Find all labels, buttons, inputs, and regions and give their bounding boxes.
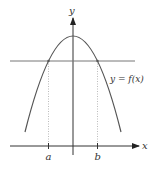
curve-label: y = f(x) bbox=[109, 74, 144, 84]
point-b-label: b bbox=[95, 151, 101, 162]
point-a-label: a bbox=[46, 151, 52, 162]
function-graph: y x y = f(x) a b bbox=[0, 0, 159, 170]
y-axis-label: y bbox=[68, 5, 75, 16]
x-axis-label: x bbox=[142, 140, 148, 151]
intersection-point-b bbox=[96, 60, 98, 62]
intersection-point-a bbox=[47, 60, 49, 62]
